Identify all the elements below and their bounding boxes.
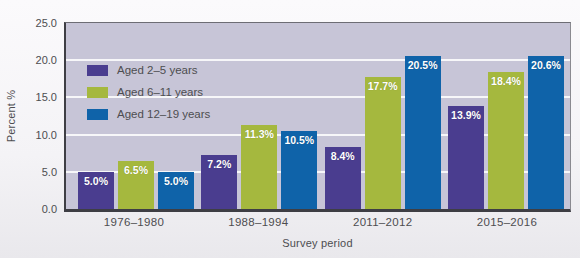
- legend-item: Aged 12–19 years: [87, 108, 210, 120]
- bar: 6.5%: [118, 161, 154, 209]
- bar-group: 13.9%18.4%20.6%: [448, 23, 564, 209]
- legend-item: Aged 6–11 years: [87, 86, 210, 98]
- bar-value-label: 8.4%: [331, 150, 355, 162]
- bar-value-label: 17.7%: [368, 80, 398, 92]
- y-axis-title: Percent %: [5, 76, 17, 156]
- bar: 10.5%: [281, 131, 317, 209]
- bar: 20.5%: [405, 56, 441, 209]
- bar-value-label: 10.5%: [284, 134, 314, 146]
- bar-value-label: 5.0%: [164, 175, 188, 187]
- legend-swatch-icon: [87, 87, 108, 98]
- legend-item: Aged 2–5 years: [87, 64, 210, 76]
- bar: 17.7%: [365, 77, 401, 209]
- legend: Aged 2–5 yearsAged 6–11 yearsAged 12–19 …: [87, 64, 210, 120]
- x-tick-label: 1988–1994: [200, 216, 316, 228]
- legend-label: Aged 6–11 years: [117, 86, 203, 98]
- bar: 8.4%: [325, 147, 361, 209]
- y-tick-label: 0.0: [0, 203, 57, 215]
- bar: 7.2%: [201, 155, 237, 209]
- bar-group: 7.2%11.3%10.5%: [201, 23, 317, 209]
- bar-value-label: 6.5%: [124, 164, 148, 176]
- bar: 11.3%: [241, 125, 277, 209]
- bar-value-label: 20.6%: [531, 59, 561, 71]
- y-tick-label: 5.0: [0, 166, 57, 178]
- bar-value-label: 13.9%: [451, 109, 481, 121]
- x-tick-label: 2011–2012: [325, 216, 441, 228]
- bar: 5.0%: [158, 172, 194, 209]
- y-tick-label: 10.0: [0, 129, 57, 141]
- y-tick-label: 15.0: [0, 91, 57, 103]
- bar-value-label: 11.3%: [245, 128, 274, 140]
- x-tick-label: 2015–2016: [449, 216, 565, 228]
- bar-value-label: 18.4%: [491, 75, 521, 87]
- bar-group: 8.4%17.7%20.5%: [325, 23, 441, 209]
- bar: 20.6%: [528, 56, 564, 209]
- x-axis-title: Survey period: [64, 237, 571, 249]
- bar-value-label: 7.2%: [207, 158, 231, 170]
- plot-area: Aged 2–5 yearsAged 6–11 yearsAged 12–19 …: [64, 22, 571, 212]
- y-tick-label: 20.0: [0, 54, 57, 66]
- y-tick-label: 25.0: [0, 17, 57, 29]
- bar: 13.9%: [448, 106, 484, 209]
- bar: 18.4%: [488, 72, 524, 209]
- legend-label: Aged 12–19 years: [117, 108, 210, 120]
- legend-swatch-icon: [87, 109, 108, 120]
- legend-label: Aged 2–5 years: [117, 64, 198, 76]
- bar-value-label: 5.0%: [84, 175, 108, 187]
- x-tick-labels: 1976–19801988–19942011–20122015–2016: [64, 216, 571, 228]
- bar-chart-figure: Percent % 0.05.010.015.020.025.0 Aged 2–…: [0, 0, 580, 258]
- legend-swatch-icon: [87, 65, 108, 76]
- bar: 5.0%: [78, 172, 114, 209]
- x-tick-label: 1976–1980: [76, 216, 192, 228]
- bar-value-label: 20.5%: [408, 59, 438, 71]
